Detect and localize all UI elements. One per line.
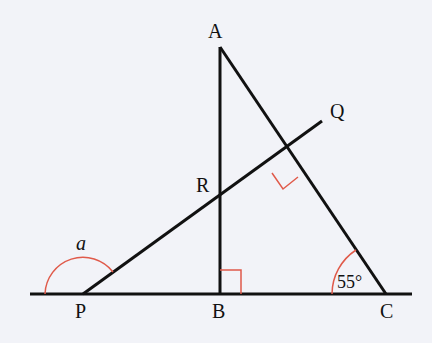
label-r-point: R: [196, 174, 210, 196]
segment-pq: [83, 121, 322, 294]
label-b-point: B: [212, 300, 225, 322]
segment-ac: [220, 47, 386, 294]
geometry-diagram: A Q R P B C a 55°: [0, 0, 432, 343]
right-angle-marker-pq-ac: [272, 173, 298, 189]
label-c-point: C: [380, 300, 393, 322]
label-angle-a: a: [76, 232, 86, 254]
angle-a-arc: [45, 257, 113, 294]
label-q-point: Q: [330, 100, 345, 122]
right-angle-marker-b: [220, 270, 241, 294]
label-a-point: A: [208, 20, 223, 42]
label-p-point: P: [75, 300, 86, 322]
label-angle-55: 55°: [337, 272, 362, 292]
